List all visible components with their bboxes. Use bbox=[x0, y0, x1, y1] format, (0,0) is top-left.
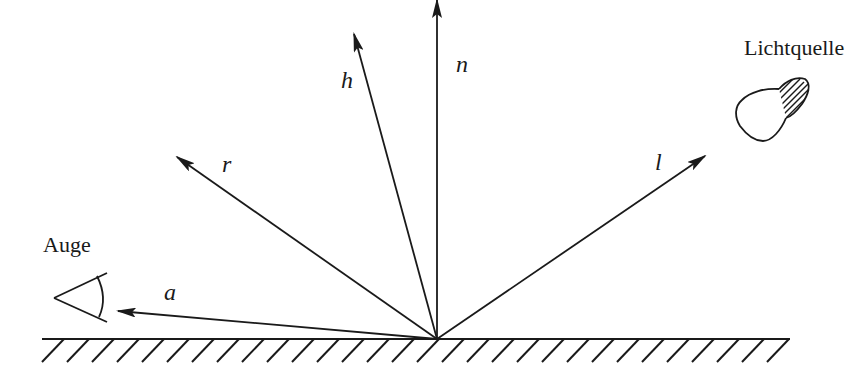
hatch-mark bbox=[417, 339, 439, 362]
hatch-mark bbox=[167, 339, 189, 362]
vector-a-arrow bbox=[118, 311, 437, 339]
hatch-mark bbox=[392, 339, 414, 362]
hatch-mark bbox=[517, 339, 539, 362]
hatch-mark bbox=[92, 339, 114, 362]
hatch-mark bbox=[467, 339, 489, 362]
hatch-mark bbox=[292, 339, 314, 362]
vector-h-label: h bbox=[341, 67, 353, 93]
hatch-mark bbox=[542, 339, 564, 362]
vector-a-label: a bbox=[164, 279, 176, 305]
light-bulb-icon bbox=[736, 76, 816, 141]
hatch-mark bbox=[67, 339, 89, 362]
hatch-mark bbox=[442, 339, 464, 362]
eye-label: Auge bbox=[43, 232, 91, 257]
vector-l-label: l bbox=[655, 149, 662, 175]
surface-hatching bbox=[42, 339, 789, 362]
eye-icon bbox=[54, 273, 107, 322]
reflection-diagram: arhnl Auge Lichtquelle bbox=[0, 0, 864, 388]
hatch-mark bbox=[492, 339, 514, 362]
hatch-mark bbox=[342, 339, 364, 362]
vector-n-label: n bbox=[456, 51, 468, 77]
hatch-mark bbox=[642, 339, 664, 362]
hatch-mark bbox=[742, 339, 764, 362]
vectors-group: arhnl bbox=[118, 0, 705, 339]
reflecting-surface bbox=[42, 339, 790, 362]
hatch-mark bbox=[242, 339, 264, 362]
vector-h: h bbox=[341, 34, 437, 339]
vector-l: l bbox=[437, 149, 705, 339]
hatch-mark bbox=[617, 339, 639, 362]
hatch-mark bbox=[217, 339, 239, 362]
hatch-mark bbox=[192, 339, 214, 362]
hatch-mark bbox=[667, 339, 689, 362]
hatch-mark bbox=[117, 339, 139, 362]
hatch-mark bbox=[367, 339, 389, 362]
hatch-mark bbox=[42, 339, 64, 362]
hatch-mark bbox=[317, 339, 339, 362]
vector-n: n bbox=[437, 0, 468, 339]
hatch-mark bbox=[717, 339, 739, 362]
hatch-mark bbox=[267, 339, 289, 362]
vector-a: a bbox=[118, 279, 437, 339]
vector-h-arrow bbox=[354, 34, 437, 339]
hatch-mark bbox=[692, 339, 714, 362]
light-source-label: Lichtquelle bbox=[744, 35, 844, 60]
vector-l-arrow bbox=[437, 156, 705, 339]
vector-r-label: r bbox=[222, 151, 232, 177]
hatch-mark bbox=[567, 339, 589, 362]
hatch-mark bbox=[142, 339, 164, 362]
hatch-mark bbox=[767, 339, 789, 362]
vector-r: r bbox=[177, 151, 437, 339]
hatch-mark bbox=[592, 339, 614, 362]
vector-r-arrow bbox=[177, 157, 437, 339]
